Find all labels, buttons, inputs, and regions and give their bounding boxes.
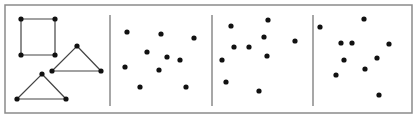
point-dot [158, 31, 163, 36]
vertex-dot [74, 43, 79, 48]
point-dot [137, 84, 142, 89]
vertex-dot [39, 71, 44, 76]
point-dot [338, 40, 343, 45]
vertex-dot [18, 52, 23, 57]
point-dot [361, 16, 366, 21]
point-dot [122, 64, 127, 69]
point-dot [333, 72, 338, 77]
point-dot [219, 57, 224, 62]
point-dot [317, 24, 322, 29]
point-dot [386, 41, 391, 46]
vertex-dot [18, 16, 23, 21]
vertex-dot [98, 68, 103, 73]
figure-canvas [0, 0, 415, 119]
point-dot [223, 79, 228, 84]
point-dot [191, 35, 196, 40]
point-dot [144, 49, 149, 54]
point-dot [261, 34, 266, 39]
point-dot [231, 44, 236, 49]
point-dot [292, 38, 297, 43]
point-dot [264, 53, 269, 58]
point-dot [376, 92, 381, 97]
point-dot [246, 44, 251, 49]
point-dot [256, 88, 261, 93]
vertex-dot [14, 96, 19, 101]
point-dot [177, 57, 182, 62]
point-dot [183, 84, 188, 89]
point-dot [156, 67, 161, 72]
vertex-dot [52, 52, 57, 57]
point-dot [362, 66, 367, 71]
vertex-dot [63, 96, 68, 101]
point-dot [374, 55, 379, 60]
point-dot [228, 23, 233, 28]
vertex-dot [49, 68, 54, 73]
point-dot [164, 54, 169, 59]
point-dot [265, 17, 270, 22]
point-dot [349, 40, 354, 45]
vertex-dot [52, 16, 57, 21]
point-dot [341, 57, 346, 62]
point-dot [124, 29, 129, 34]
